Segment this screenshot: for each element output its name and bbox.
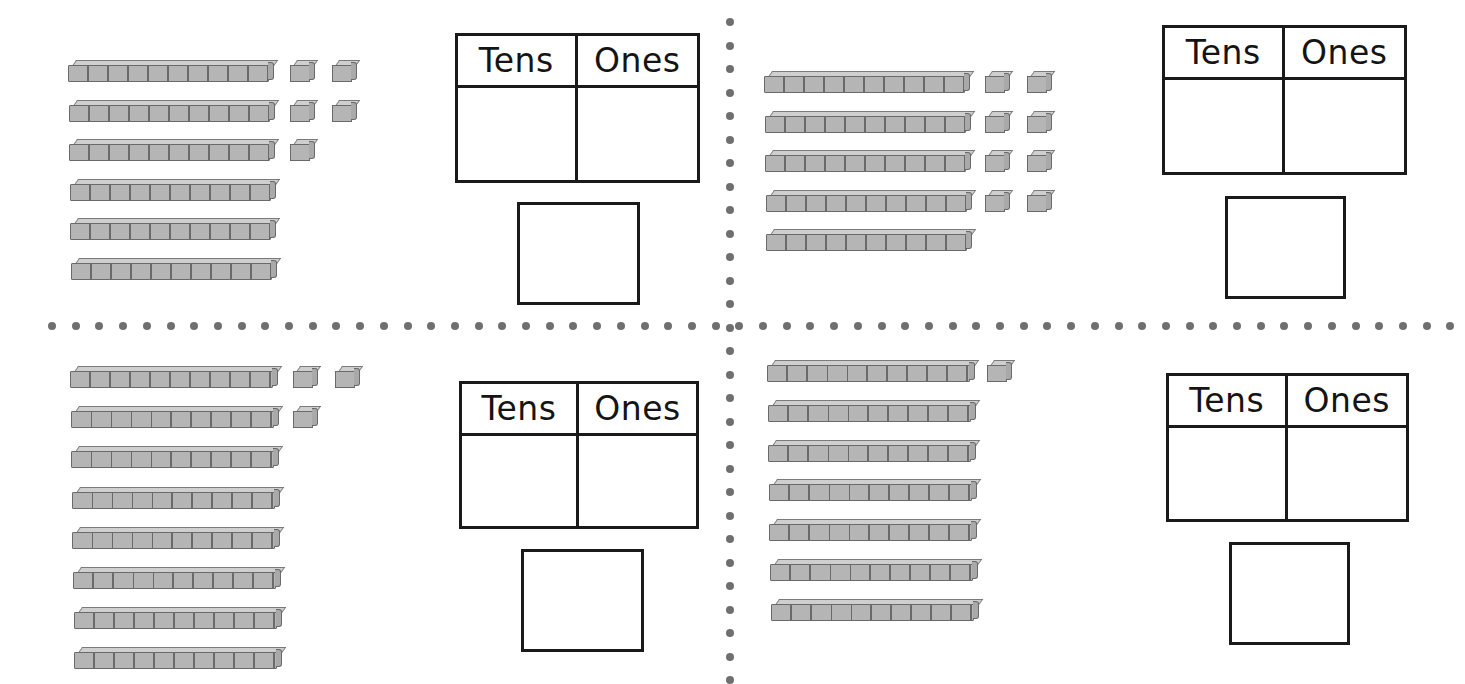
divider-dot bbox=[726, 465, 734, 473]
divider-dot bbox=[726, 676, 734, 684]
tens-cell[interactable] bbox=[462, 436, 579, 526]
tens-ones-chart: Tens Ones bbox=[1162, 25, 1407, 175]
divider-dot bbox=[1209, 322, 1217, 330]
divider-dot bbox=[593, 322, 601, 330]
unit-cube bbox=[987, 360, 1013, 382]
ten-rod bbox=[764, 71, 970, 93]
divider-dot bbox=[1115, 322, 1123, 330]
divider-dot bbox=[569, 322, 577, 330]
divider-dot bbox=[1328, 322, 1336, 330]
divider-dot bbox=[726, 418, 734, 426]
divider-dot bbox=[285, 322, 293, 330]
answer-box[interactable] bbox=[521, 549, 644, 652]
divider-dot bbox=[726, 89, 734, 97]
divider-dot bbox=[726, 347, 734, 355]
divider-dot bbox=[901, 322, 909, 330]
tens-cell[interactable] bbox=[1165, 80, 1285, 172]
unit-cube bbox=[985, 190, 1011, 212]
ones-cell[interactable] bbox=[579, 436, 696, 526]
tens-ones-chart: Tens Ones bbox=[455, 33, 700, 183]
unit-cube bbox=[290, 100, 316, 122]
divider-dot bbox=[309, 322, 317, 330]
divider-dot bbox=[726, 277, 734, 285]
unit-cube bbox=[293, 366, 319, 388]
divider-dot bbox=[726, 230, 734, 238]
divider-dot bbox=[712, 322, 720, 330]
divider-dot bbox=[726, 535, 734, 543]
unit-cube bbox=[293, 406, 319, 428]
unit-cube bbox=[1027, 190, 1053, 212]
ones-header: Ones bbox=[579, 384, 696, 436]
divider-dot bbox=[726, 582, 734, 590]
divider-dot bbox=[806, 322, 814, 330]
divider-dot bbox=[726, 183, 734, 191]
ones-header: Ones bbox=[1288, 376, 1407, 428]
tens-cell[interactable] bbox=[458, 88, 578, 180]
unit-cube bbox=[335, 366, 361, 388]
divider-dot bbox=[726, 512, 734, 520]
divider-dot bbox=[726, 206, 734, 214]
tens-cell[interactable] bbox=[1169, 428, 1288, 519]
unit-cube bbox=[985, 71, 1011, 93]
ten-rod bbox=[765, 150, 971, 172]
divider-dot bbox=[972, 322, 980, 330]
ten-rod bbox=[71, 258, 277, 280]
divider-dot bbox=[1304, 322, 1312, 330]
answer-box[interactable] bbox=[1225, 196, 1346, 299]
divider-dot bbox=[878, 322, 886, 330]
tens-header: Tens bbox=[1165, 28, 1285, 80]
tens-header: Tens bbox=[462, 384, 579, 436]
divider-dot bbox=[119, 322, 127, 330]
ten-rod bbox=[72, 487, 280, 509]
unit-cube bbox=[332, 60, 358, 82]
divider-dot bbox=[726, 441, 734, 449]
divider-dot bbox=[475, 322, 483, 330]
divider-dot bbox=[1280, 322, 1288, 330]
tens-header: Tens bbox=[1169, 376, 1288, 428]
divider-dot bbox=[925, 322, 933, 330]
divider-dot bbox=[726, 653, 734, 661]
ten-rod bbox=[766, 190, 972, 212]
divider-dot bbox=[830, 322, 838, 330]
divider-dot bbox=[854, 322, 862, 330]
divider-dot bbox=[1375, 322, 1383, 330]
ones-cell[interactable] bbox=[1288, 428, 1407, 519]
divider-dot bbox=[261, 322, 269, 330]
answer-box[interactable] bbox=[1229, 542, 1350, 645]
divider-dot bbox=[641, 322, 649, 330]
divider-dot bbox=[451, 322, 459, 330]
divider-dot bbox=[143, 322, 151, 330]
divider-dot bbox=[238, 322, 246, 330]
ones-cell[interactable] bbox=[1285, 80, 1405, 172]
divider-dot bbox=[498, 322, 506, 330]
ten-rod bbox=[70, 218, 276, 240]
divider-dot bbox=[1423, 322, 1431, 330]
unit-cube bbox=[1027, 111, 1053, 133]
divider-dot bbox=[48, 322, 56, 330]
ten-rod bbox=[766, 229, 972, 251]
ten-rod bbox=[768, 400, 976, 422]
unit-cube bbox=[985, 150, 1011, 172]
ten-rod bbox=[767, 360, 975, 382]
divider-dot bbox=[726, 371, 734, 379]
divider-dot bbox=[735, 322, 743, 330]
divider-dot bbox=[726, 253, 734, 261]
unit-cube bbox=[985, 111, 1011, 133]
ten-rod bbox=[768, 440, 976, 462]
ten-rod bbox=[769, 519, 977, 541]
ten-rod bbox=[770, 559, 978, 581]
divider-dot bbox=[726, 65, 734, 73]
divider-dot bbox=[1138, 322, 1146, 330]
tens-ones-chart: Tens Ones bbox=[1166, 373, 1409, 522]
divider-dot bbox=[546, 322, 554, 330]
ten-rod bbox=[771, 599, 979, 621]
ones-cell[interactable] bbox=[578, 88, 698, 180]
divider-dot bbox=[726, 324, 734, 332]
unit-cube bbox=[1027, 71, 1053, 93]
answer-box[interactable] bbox=[517, 202, 640, 305]
divider-dot bbox=[726, 559, 734, 567]
divider-dot bbox=[783, 322, 791, 330]
divider-dot bbox=[726, 136, 734, 144]
divider-dot bbox=[726, 606, 734, 614]
divider-dot bbox=[1186, 322, 1194, 330]
